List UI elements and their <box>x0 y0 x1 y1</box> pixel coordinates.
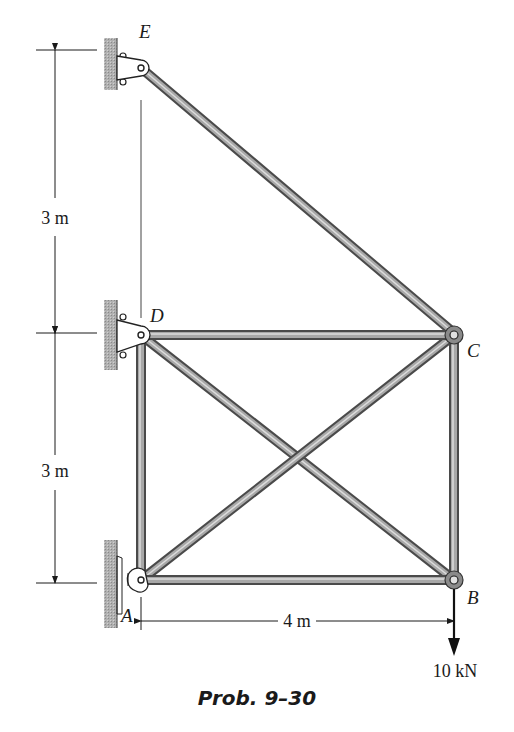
member-CB <box>453 335 454 580</box>
pin-E <box>117 53 149 85</box>
dimension-label-upper: 3 m <box>41 208 69 228</box>
joint-C <box>445 326 463 344</box>
figure-caption: Prob. 9–30 <box>0 686 514 710</box>
dimension-label-lower: 3 m <box>41 461 69 481</box>
wall-supports <box>104 38 117 628</box>
member-DA <box>140 335 141 580</box>
wall-A <box>104 540 117 628</box>
wall-E <box>104 38 117 90</box>
joint-label-D: D <box>149 305 164 326</box>
joint-label-B: B <box>467 587 479 608</box>
member-EC <box>141 68 454 333</box>
load-label: 10 kN <box>433 661 478 681</box>
truss-diagram: E D C B A 3 m 3 m 4 m 10 kN <box>0 0 514 732</box>
load-arrow <box>448 589 460 656</box>
member-DC <box>141 334 454 335</box>
joint-label-E: E <box>138 21 151 42</box>
truss-members <box>140 68 454 580</box>
wall-D <box>104 300 117 370</box>
dimension-label-horizontal: 4 m <box>283 611 311 631</box>
member-AB <box>141 579 454 580</box>
joint-label-C: C <box>467 340 480 361</box>
joint-label-A: A <box>119 605 133 626</box>
joint-B <box>445 571 463 589</box>
